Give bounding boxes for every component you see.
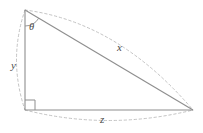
label-z: z [99, 113, 105, 125]
label-x: x [116, 41, 122, 53]
label-y: y [10, 59, 16, 71]
label-theta: θ [29, 21, 34, 32]
dashed-arc-vertical-leg [17, 10, 26, 110]
right-angle-marker [25, 100, 35, 110]
triangle-side-hypotenuse [25, 10, 193, 110]
triangle-diagram: θ y x z [0, 0, 203, 133]
dashed-arc-horizontal-leg [25, 110, 193, 121]
figure-canvas: θ y x z [0, 0, 203, 133]
